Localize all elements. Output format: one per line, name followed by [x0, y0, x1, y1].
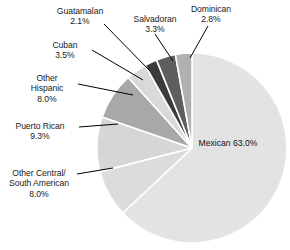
slice-label-salvadoran-value: 3.3% — [120, 24, 190, 34]
slice-label-dominican-name: Dominican — [175, 4, 247, 14]
slice-label-guatamalan: Guatamalan 2.1% — [41, 6, 119, 27]
slice-label-other-central-south-line1: Other Central/ — [1, 168, 77, 178]
pie-chart: Guatamalan 2.1% Salvadoran 3.3% Dominica… — [0, 0, 290, 250]
slice-label-mexican-name: Mexican — [199, 138, 231, 148]
slice-label-guatamalan-name: Guatamalan — [41, 6, 119, 16]
slice-label-other-hispanic: Other Hispanic 8.0% — [18, 73, 76, 104]
slice-label-puerto-rican: Puerto Rican 9.3% — [4, 121, 76, 142]
slice-label-dominican-value: 2.8% — [175, 14, 247, 24]
leader-line-cuban — [92, 50, 143, 80]
slice-label-puerto-rican-name: Puerto Rican — [4, 121, 76, 131]
slice-label-other-hispanic-line1: Other — [18, 73, 76, 83]
slice-label-guatamalan-value: 2.1% — [41, 16, 119, 26]
slice-label-dominican: Dominican 2.8% — [175, 4, 247, 25]
slice-label-cuban-value: 3.5% — [42, 50, 88, 60]
slice-label-puerto-rican-value: 9.3% — [4, 131, 76, 141]
slice-label-other-hispanic-line2: Hispanic — [18, 83, 76, 93]
slice-label-other-hispanic-value: 8.0% — [18, 94, 76, 104]
slice-label-cuban: Cuban 3.5% — [42, 40, 88, 61]
slice-label-other-central-south-value: 8.0% — [1, 189, 77, 199]
slice-label-other-central-south: Other Central/ South American 8.0% — [1, 168, 77, 199]
slice-label-mexican: Mexican 63.0% — [196, 138, 260, 148]
slice-label-other-central-south-line2: South American — [1, 178, 77, 188]
slice-label-cuban-name: Cuban — [42, 40, 88, 50]
slice-label-mexican-value: 63.0% — [233, 138, 257, 148]
